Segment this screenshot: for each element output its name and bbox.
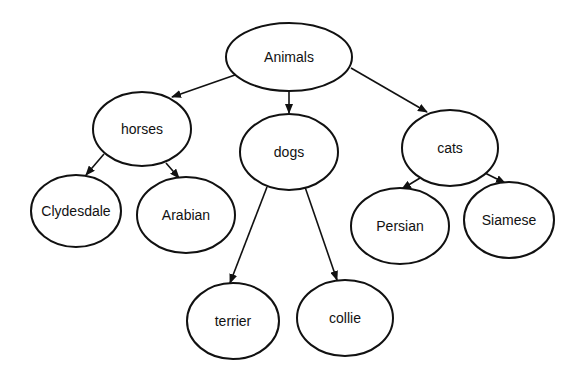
- edge-arrow-horses-to-arabian: [166, 163, 179, 178]
- edge-arrow-animals-to-cats: [351, 68, 427, 112]
- edge-arrow-dogs-to-terrier: [230, 187, 267, 283]
- node-label-clydesdale: Clydesdale: [41, 203, 110, 219]
- node-label-persian: Persian: [376, 218, 423, 234]
- node-label-siamese: Siamese: [482, 212, 537, 228]
- node-siamese: Siamese: [464, 182, 554, 258]
- node-label-arabian: Arabian: [162, 207, 210, 223]
- edge-arrow-horses-to-clydesdale: [86, 154, 104, 175]
- node-dogs: dogs: [240, 114, 338, 190]
- edge-arrow-animals-to-horses: [172, 75, 235, 97]
- node-horses: horses: [93, 92, 191, 166]
- node-label-animals: Animals: [264, 49, 314, 65]
- node-terrier: terrier: [187, 283, 279, 359]
- animal-taxonomy-tree: AnimalshorsesdogscatsClydesdaleArabianPe…: [0, 0, 587, 378]
- node-arabian: Arabian: [137, 177, 235, 253]
- node-clydesdale: Clydesdale: [31, 175, 121, 247]
- edge-arrow-dogs-to-collie: [305, 187, 337, 280]
- node-persian: Persian: [351, 188, 449, 264]
- node-cats: cats: [402, 110, 498, 186]
- node-label-terrier: terrier: [215, 313, 252, 329]
- node-label-horses: horses: [121, 121, 163, 137]
- node-label-cats: cats: [437, 140, 463, 156]
- node-label-dogs: dogs: [274, 144, 304, 160]
- nodes-group: AnimalshorsesdogscatsClydesdaleArabianPe…: [31, 23, 554, 359]
- node-animals: Animals: [226, 23, 352, 91]
- node-collie: collie: [297, 280, 393, 356]
- node-label-collie: collie: [329, 310, 361, 326]
